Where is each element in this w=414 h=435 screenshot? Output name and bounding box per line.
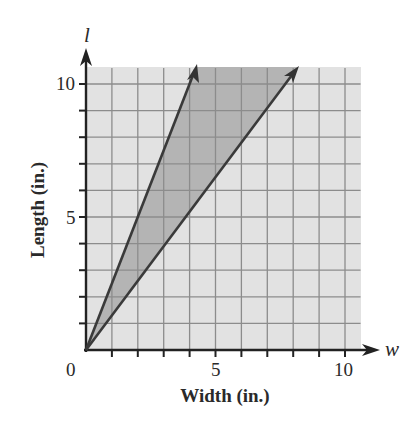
- x-tick-label-5: 5: [211, 359, 221, 380]
- x-axis-title: Width (in.): [180, 385, 269, 407]
- x-variable-label: w: [385, 337, 399, 361]
- x-tick-label-10: 10: [334, 359, 353, 380]
- x-tick-label-0: 0: [66, 359, 76, 380]
- y-variable-label: l: [84, 23, 90, 47]
- y-tick-label-5: 5: [66, 207, 76, 228]
- y-axis-title: Length (in.): [27, 162, 49, 258]
- y-tick-label-10: 10: [56, 73, 75, 94]
- chart: 0 5 10 5 10 l w Width (in.) Length (in.): [0, 0, 414, 435]
